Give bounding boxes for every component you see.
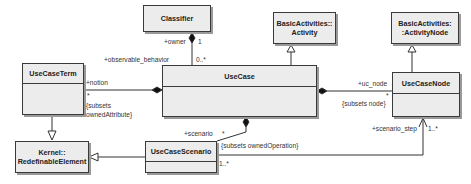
composition-diamond-notion [152,87,162,93]
class-activity-node[interactable]: BasicActivities: :ActivityNode [391,12,459,44]
constraint-owned-operation: {subsets ownedOperation} [221,142,298,150]
mult-scenario: * [222,130,225,138]
attribute-compartment [393,93,459,94]
role-scenario: +scenario [184,130,213,138]
mult-observable-behavior: 0..* [196,56,206,64]
composition-diamond-ucnode [317,88,327,94]
class-use-case-scenario[interactable]: UseCaseScenario [145,141,217,173]
generalization-arrow-activity [287,45,295,52]
composition-diamond-scenario [243,117,249,127]
role-uc-node: +uc_node [358,80,387,88]
class-use-case-node[interactable]: UseCaseNode [392,72,460,117]
generalization-arrow-activitynode [408,45,416,52]
attribute-compartment [146,161,216,162]
mult-scenario-step: 1..* [428,125,438,133]
mult-scenario-source: 1..* [219,160,229,168]
mult-owner: 1 [198,38,202,46]
role-scenario-step: +scenario_step [372,125,417,133]
class-classifier[interactable]: Classifier [143,5,211,32]
role-notion: +notion [86,79,108,87]
composition-diamond-classifier [189,33,195,43]
attribute-compartment [23,83,83,84]
class-activity[interactable]: BasicActivities:: Activity [273,12,336,44]
class-name: Classifier [144,6,210,31]
mult-uc-node: * [386,92,389,100]
generalization-arrow-scenario [89,153,98,161]
class-use-case[interactable]: UseCase [162,65,317,117]
constraint-owned-attribute-1: {subsets [86,102,111,110]
mult-notion: * [87,92,90,100]
class-use-case-term[interactable]: UseCaseTerm [22,63,84,115]
class-name: Kernel:: RedefinableElement [16,142,88,172]
class-name: UseCase [163,66,316,86]
constraint-subsets-node: {subsets node} [342,100,386,108]
generalization-arrow-usecaseterm [48,131,56,140]
role-owner: +owner [164,38,186,46]
role-observable-behavior: +observable_behavior [104,56,169,64]
uml-class-diagram: Classifier BasicActivities:: Activity Ba… [0,0,471,184]
constraint-owned-attribute-2: ownedAttribute} [86,111,132,119]
class-name: BasicActivities:: Activity [274,13,335,43]
class-name: UseCaseScenario [146,142,216,161]
class-redefinable-element[interactable]: Kernel:: RedefinableElement [15,141,89,173]
class-name: UseCaseNode [393,73,459,93]
class-name: UseCaseTerm [23,64,83,83]
class-name: BasicActivities: :ActivityNode [392,13,458,43]
attribute-compartment [163,86,316,87]
